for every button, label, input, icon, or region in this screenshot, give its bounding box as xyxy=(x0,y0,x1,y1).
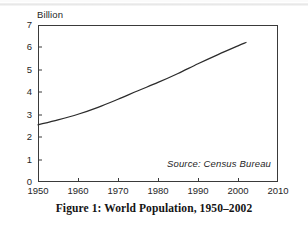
x-tick-label: 2010 xyxy=(267,185,288,196)
figure-world-population: Billion 01234567 19501960197019801990200… xyxy=(0,0,308,225)
x-tick-label: 1950 xyxy=(27,185,48,196)
chart-area: Billion 01234567 19501960197019801990200… xyxy=(0,0,308,200)
figure-caption: Figure 1: World Population, 1950–2002 xyxy=(0,201,308,215)
x-tick-label: 1970 xyxy=(107,185,128,196)
x-tick-label: 2000 xyxy=(227,185,248,196)
x-tick-label: 1960 xyxy=(67,185,88,196)
x-tick-label: 1980 xyxy=(147,185,168,196)
source-annotation: Source: Census Bureau xyxy=(167,158,271,169)
x-tick-label: 1990 xyxy=(187,185,208,196)
